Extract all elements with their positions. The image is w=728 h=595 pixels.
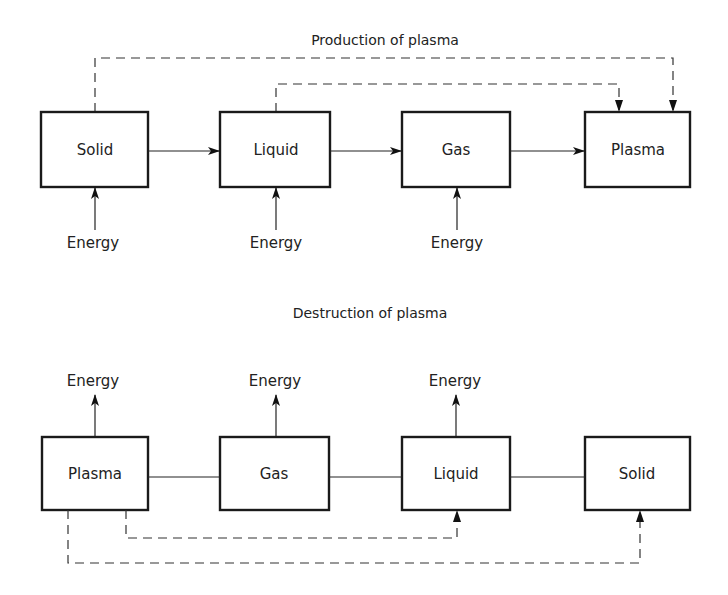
box-label: Solid xyxy=(619,465,656,483)
energy-label: Energy xyxy=(67,372,120,390)
box-plasma: Plasma xyxy=(585,112,690,187)
plasma-states-diagram: Production of plasma Solid Liquid Gas Pl… xyxy=(0,0,728,595)
solid-to-plasma-dashed-path xyxy=(95,58,673,112)
box-label: Liquid xyxy=(433,465,478,483)
box-label: Gas xyxy=(260,465,289,483)
box-plasma: Plasma xyxy=(42,437,148,510)
production-section: Production of plasma Solid Liquid Gas Pl… xyxy=(41,32,690,252)
energy-label: Energy xyxy=(249,372,302,390)
energy-label: Energy xyxy=(250,234,303,252)
energy-label: Energy xyxy=(67,234,120,252)
box-gas: Gas xyxy=(402,112,510,187)
destruction-section: Destruction of plasma Energy Energy Ener… xyxy=(42,305,690,563)
box-label: Gas xyxy=(442,141,471,159)
arrowhead-icon xyxy=(669,100,677,112)
arrowhead-icon xyxy=(615,100,623,112)
plasma-to-solid-dashed-path xyxy=(68,510,640,563)
destruction-title: Destruction of plasma xyxy=(293,305,448,321)
plasma-to-liquid-dashed-path xyxy=(126,510,457,538)
box-solid: Solid xyxy=(41,112,148,187)
box-solid: Solid xyxy=(585,437,690,510)
energy-label: Energy xyxy=(429,372,482,390)
liquid-to-plasma-dashed-path xyxy=(276,84,619,112)
energy-label: Energy xyxy=(431,234,484,252)
box-label: Solid xyxy=(77,141,114,159)
box-liquid: Liquid xyxy=(402,437,510,510)
arrowhead-icon xyxy=(636,510,644,522)
box-label: Plasma xyxy=(68,465,122,483)
arrowhead-icon xyxy=(453,510,461,522)
box-liquid: Liquid xyxy=(220,112,330,187)
box-label: Liquid xyxy=(253,141,298,159)
box-gas: Gas xyxy=(220,437,329,510)
production-title: Production of plasma xyxy=(311,32,459,48)
box-label: Plasma xyxy=(611,141,665,159)
